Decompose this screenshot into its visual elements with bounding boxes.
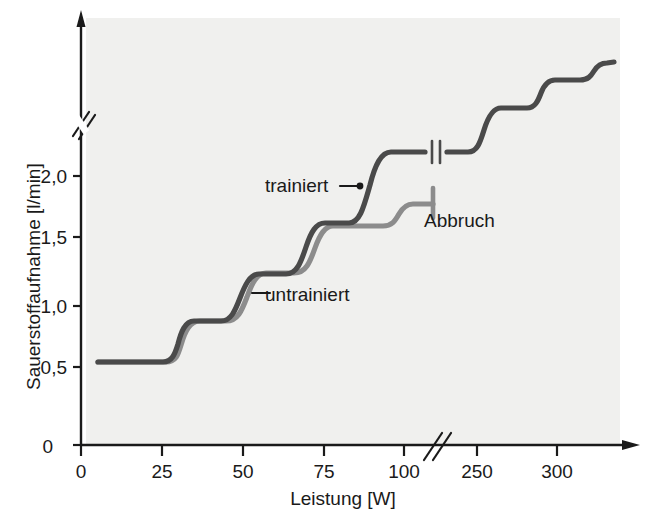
x-axis-ticks bbox=[81, 445, 557, 456]
x-tick-label-50: 50 bbox=[232, 462, 253, 481]
chart-canvas bbox=[0, 0, 646, 515]
y-axis-title: Sauerstoffaufnahme [l/min] bbox=[24, 163, 43, 390]
y-tick-label-1-5: 1,5 bbox=[41, 228, 67, 247]
y-axis-arrowhead bbox=[77, 10, 86, 27]
plot-area-background bbox=[86, 18, 620, 445]
oxygen-uptake-chart: 0 0,5 1,0 1,5 2,0 0 25 50 75 100 250 300… bbox=[0, 0, 646, 515]
y-tick-label-0-5: 0,5 bbox=[41, 358, 67, 377]
x-tick-label-300: 300 bbox=[541, 462, 573, 481]
annotation-untrainiert: untrainiert bbox=[265, 285, 350, 304]
trainiert-leader-dot bbox=[357, 183, 364, 190]
annotation-abbruch: Abbruch bbox=[424, 211, 495, 230]
y-tick-label-1-0: 1,0 bbox=[41, 297, 67, 316]
annotation-trainiert: trainiert bbox=[265, 176, 328, 195]
x-axis-title: Leistung [W] bbox=[290, 489, 396, 508]
x-tick-label-100: 100 bbox=[388, 462, 420, 481]
x-tick-label-25: 25 bbox=[151, 462, 172, 481]
x-tick-label-75: 75 bbox=[313, 462, 334, 481]
y-tick-label-0: 0 bbox=[42, 437, 53, 456]
x-axis-arrowhead bbox=[622, 440, 640, 450]
x-tick-label-0: 0 bbox=[76, 462, 87, 481]
x-tick-label-250: 250 bbox=[461, 462, 493, 481]
y-tick-label-2-0: 2,0 bbox=[41, 167, 67, 186]
